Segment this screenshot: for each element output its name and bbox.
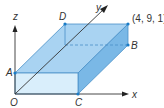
x-axis-label: x — [131, 89, 138, 100]
label-origin: O — [10, 97, 18, 108]
label-c: C — [75, 97, 83, 108]
z-axis-label: z — [12, 11, 18, 22]
cuboid-diagram: z y x D A B C O (4, 9, 1) — [0, 0, 164, 108]
front-face — [15, 73, 78, 94]
z-axis-arrow-icon — [13, 25, 18, 32]
x-axis-arrow-icon — [122, 92, 129, 97]
corner-coordinate-label: (4, 9, 1) — [132, 13, 164, 24]
point-a — [13, 71, 16, 74]
label-b: B — [131, 40, 138, 51]
y-axis-label: y — [95, 2, 102, 13]
point-corner — [126, 22, 129, 25]
point-d — [63, 22, 66, 25]
point-b — [126, 43, 129, 46]
label-a: A — [5, 67, 13, 78]
point-c — [76, 92, 79, 95]
label-d: D — [59, 11, 66, 22]
